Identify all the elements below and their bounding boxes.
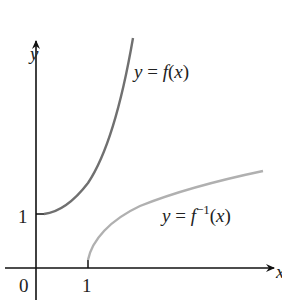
x-tick-1-label: 1 bbox=[82, 275, 92, 296]
x-axis-label: x bbox=[275, 261, 282, 282]
chart: y x 0 1 1 y = f(x) y = f−1(x) bbox=[0, 0, 282, 300]
curve-f bbox=[44, 38, 133, 214]
f-inverse-curve-label: y = f−1(x) bbox=[160, 202, 231, 227]
y-tick-1-label: 1 bbox=[18, 206, 28, 227]
y-axis-label: y bbox=[28, 43, 39, 64]
origin-label: 0 bbox=[19, 275, 29, 296]
f-curve-label: y = f(x) bbox=[132, 61, 189, 83]
